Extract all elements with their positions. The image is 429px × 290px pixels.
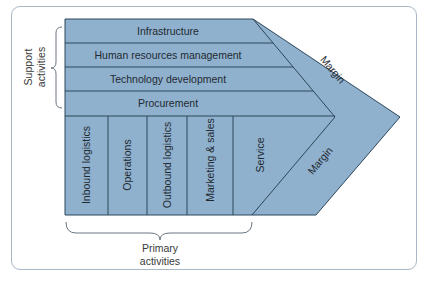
support-row-infrastructure: Infrastructure [137,25,199,37]
support-label-line1: Support [22,49,34,86]
primary-label-line2: activities [140,255,180,267]
primary-col-service: Service [254,137,266,172]
support-label-line2: activities [35,47,47,87]
primary-col-inbound-logistics: Inbound logistics [80,126,92,204]
support-brace [51,27,62,108]
primary-col-operations: Operations [121,139,133,190]
primary-label-line1: Primary [142,242,179,254]
support-row-procurement: Procurement [138,97,198,109]
primary-brace [66,222,252,240]
primary-col-outbound-logistics: Outbound logistics [161,122,173,208]
support-row-technology-development: Technology development [110,73,226,85]
primary-col-marketing-sales: Marketing & sales [204,118,216,201]
value-chain-diagram: Infrastructure Human resources managemen… [0,0,429,290]
support-row-hr-management: Human resources management [94,49,241,61]
